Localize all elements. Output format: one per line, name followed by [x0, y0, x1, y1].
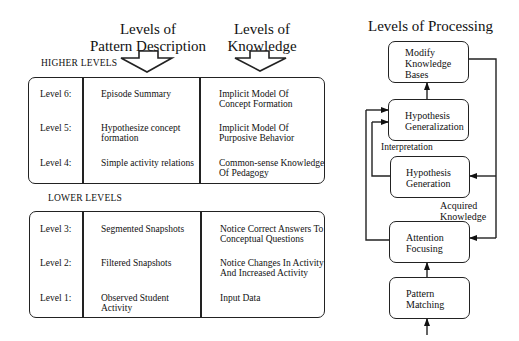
interpretation-label: Interpretation [381, 142, 433, 152]
box-hypothesis-generalization: Hypothesis Generalization [388, 99, 469, 141]
left-rail-outer [366, 110, 389, 240]
box-label: Hypothesis Generation [406, 167, 451, 189]
acquired-knowledge-label: Acquired Knowledge [440, 200, 486, 222]
box-pattern-matching: Pattern Matching [389, 277, 470, 319]
box-label: Pattern Matching [406, 288, 444, 310]
box-label: Hypothesis Generalization [405, 110, 464, 132]
box-label: Modify Knowledge Bases [405, 47, 451, 80]
box-modify-knowledge-bases: Modify Knowledge Bases [388, 41, 469, 83]
box-hypothesis-generation: Hypothesis Generation [390, 156, 470, 198]
box-label: Attention Focusing [406, 232, 444, 254]
box-attention-focusing: Attention Focusing [389, 221, 470, 263]
